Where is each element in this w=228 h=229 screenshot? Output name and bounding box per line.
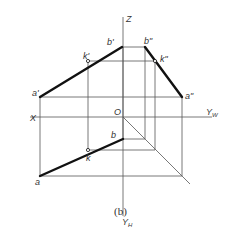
label-a-front: a' (32, 88, 39, 98)
figure-caption: (b) (114, 205, 127, 218)
origin-label: O (114, 107, 121, 117)
yh-axis-label: YH (122, 217, 133, 228)
label-b-side: b" (144, 36, 153, 46)
point-k-top (86, 148, 89, 151)
segment-ab-front (40, 47, 122, 97)
label-b-front: b' (107, 37, 114, 47)
label-k-top: k (86, 153, 91, 163)
45-degree-line (123, 117, 190, 184)
yw-axis-label: YW (206, 107, 219, 118)
z-axis-label: Z (125, 14, 132, 24)
label-a-side: a" (185, 91, 194, 101)
label-k-front: k' (83, 51, 90, 61)
label-k-side: k" (160, 54, 169, 64)
projection-diagram: Z X YW YH O a' b' k' b" k" a" a b k (b) (0, 0, 228, 229)
point-k-side (153, 59, 156, 62)
x-axis-label: X (29, 113, 37, 123)
segment-ab-top (40, 139, 123, 176)
label-b-top: b (111, 130, 116, 140)
label-a-top: a (35, 177, 40, 187)
